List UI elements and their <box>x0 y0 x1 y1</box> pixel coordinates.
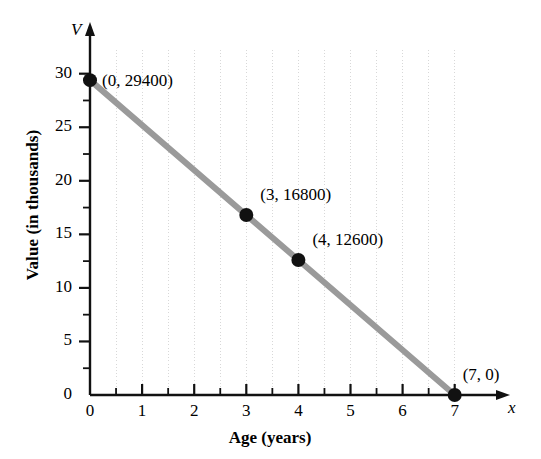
y-tick-label: 15 <box>38 223 72 243</box>
x-tick-label: 4 <box>285 401 311 421</box>
x-tick-label: 3 <box>233 401 259 421</box>
data-point-label: (7, 0) <box>463 365 500 385</box>
data-point-label: (3, 16800) <box>260 185 331 205</box>
x-tick-label: 0 <box>77 401 103 421</box>
data-point-label: (0, 29400) <box>102 71 173 91</box>
plot-area <box>90 50 485 395</box>
y-tick-label: 20 <box>38 170 72 190</box>
y-tick-label: 25 <box>38 116 72 136</box>
x-tick-label: 7 <box>442 401 468 421</box>
x-axis-symbol: x <box>508 398 516 418</box>
x-tick-label: 5 <box>338 401 364 421</box>
chart-figure: Value (in thousands) Age (years) V x 051… <box>0 0 541 459</box>
x-axis-title: Age (years) <box>150 428 390 448</box>
x-tick-label: 2 <box>181 401 207 421</box>
y-tick-label: 5 <box>38 330 72 350</box>
x-tick-label: 6 <box>390 401 416 421</box>
grid <box>90 50 485 395</box>
y-tick-label: 10 <box>38 277 72 297</box>
data-point-label: (4, 12600) <box>312 230 383 250</box>
y-axis-symbol: V <box>71 20 81 40</box>
y-tick-label: 30 <box>38 63 72 83</box>
y-tick-label: 0 <box>38 384 72 404</box>
x-tick-label: 1 <box>129 401 155 421</box>
